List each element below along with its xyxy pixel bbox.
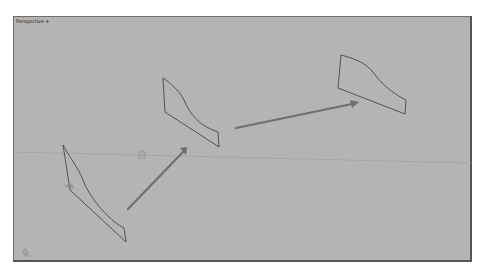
viewport-label-plus: + — [45, 18, 49, 24]
3d-viewport[interactable]: Perspective + — [13, 16, 472, 262]
viewport-label[interactable]: Perspective + — [16, 18, 49, 24]
viewport-label-text: Perspective — [16, 18, 44, 24]
